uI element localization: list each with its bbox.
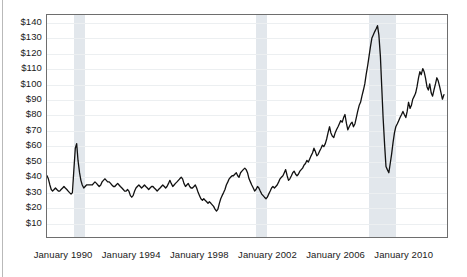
x-axis-tick-label: January 1990 [34, 249, 93, 260]
x-axis-tick-label: January 1998 [170, 249, 229, 260]
y-axis-tick-label: $20 [0, 202, 42, 212]
y-axis-tick-label: $140 [0, 17, 42, 27]
y-axis-tick-label: $100 [0, 79, 42, 89]
plot-area [46, 14, 448, 238]
x-axis-tick-label: January 2006 [306, 249, 365, 260]
chart-figure: $140$130$120$110$100$90$80$70$60$50$40$3… [0, 0, 467, 277]
y-axis-tick-label: $90 [0, 94, 42, 104]
price-line-series [47, 15, 447, 237]
y-axis-tick-label: $70 [0, 125, 42, 135]
y-axis-tick-label: $10 [0, 218, 42, 228]
plot-inner [47, 15, 447, 237]
x-axis-labels: January 1990January 1994January 1998Janu… [0, 249, 467, 265]
x-axis-tick-label: January 1994 [102, 249, 161, 260]
y-axis-tick-label: $40 [0, 171, 42, 181]
y-axis-tick-label: $50 [0, 156, 42, 166]
y-axis-tick-label: $60 [0, 140, 42, 150]
y-axis-tick-label: $110 [0, 63, 42, 73]
y-axis-tick-label: $80 [0, 109, 42, 119]
y-axis-tick-label: $30 [0, 187, 42, 197]
x-axis-tick-label: January 2010 [374, 249, 433, 260]
x-axis-tick-label: January 2002 [238, 249, 297, 260]
y-axis-tick-label: $130 [0, 32, 42, 42]
y-axis-tick-label: $120 [0, 48, 42, 58]
